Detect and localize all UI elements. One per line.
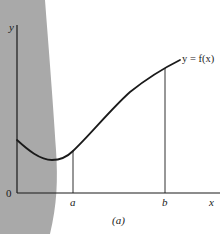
function-graph-figure: y 0 x a b y = f(x) (a) [0, 0, 223, 234]
marker-label-b: b [162, 196, 168, 208]
function-label: y = f(x) [182, 53, 215, 65]
marker-label-a: a [70, 196, 76, 208]
x-axis-label: x [208, 196, 214, 208]
origin-label: 0 [6, 187, 12, 199]
figure-caption: (a) [112, 214, 125, 227]
y-axis-label: y [8, 21, 14, 33]
